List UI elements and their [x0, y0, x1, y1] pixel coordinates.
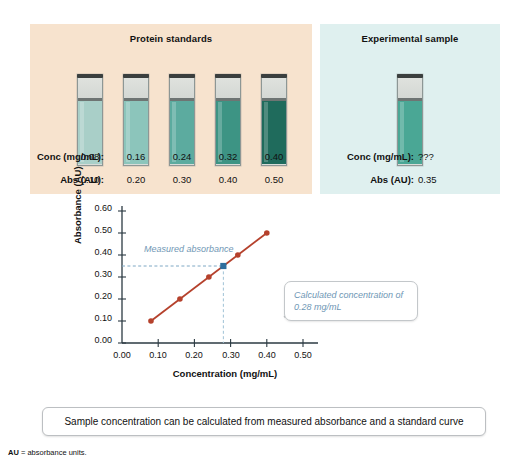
- cuvette-air-gap: [398, 78, 422, 99]
- footnote-abbreviation: AU: [8, 448, 19, 457]
- standards-abs-value-5: 0.50: [257, 174, 291, 185]
- chart-data-point: [235, 252, 241, 258]
- sample-conc-value: ???: [418, 151, 468, 162]
- figure-root: Protein standards: [0, 0, 528, 469]
- summary-statement-box: Sample concentration can be calculated f…: [42, 407, 486, 436]
- sample-abs-value: 0.35: [418, 174, 468, 185]
- standard-curve-chart: Absorbance (AU) Concentration (mg/mL) 0.…: [78, 198, 428, 383]
- standards-conc-value-2: 0.16: [119, 151, 153, 162]
- summary-statement-text: Sample concentration can be calculated f…: [64, 416, 463, 427]
- standards-conc-value-5: 0.40: [257, 151, 291, 162]
- cuvette-air-gap: [78, 78, 102, 99]
- annotation-calculated-concentration: Calculated concentration of 0.28 mg/mL: [284, 281, 418, 321]
- chart-data-point: [177, 296, 183, 302]
- standards-panel-title: Protein standards: [30, 33, 312, 44]
- standards-abs-value-3: 0.30: [165, 174, 199, 185]
- chart-data-point: [206, 274, 212, 280]
- cuvette-air-gap: [170, 78, 194, 99]
- standards-abs-value-4: 0.40: [211, 174, 245, 185]
- standards-conc-value-4: 0.32: [211, 151, 245, 162]
- chart-data-point: [148, 318, 154, 324]
- cuvette-air-gap: [216, 78, 240, 99]
- sample-conc-row-label: Conc (mg/mL):: [314, 151, 414, 162]
- cuvette-air-gap: [124, 78, 148, 99]
- experimental-sample-panel: Experimental sample Conc (mg/mL): ??? Ab…: [320, 24, 500, 194]
- chart-data-point: [264, 230, 270, 236]
- measured-absorbance-marker: [220, 263, 226, 269]
- cuvette-air-gap: [262, 78, 286, 99]
- footnote: AU = absorbance units.: [8, 448, 87, 457]
- footnote-text: = absorbance units.: [21, 448, 87, 457]
- standards-conc-value-1: 0.08: [73, 151, 107, 162]
- sample-abs-row-label: Abs (AU):: [314, 174, 414, 185]
- standards-conc-value-3: 0.24: [165, 151, 199, 162]
- sample-panel-title: Experimental sample: [320, 33, 500, 44]
- annotation-measured-absorbance: Measured absorbance: [144, 244, 234, 254]
- standards-abs-value-2: 0.20: [119, 174, 153, 185]
